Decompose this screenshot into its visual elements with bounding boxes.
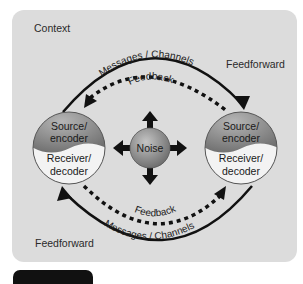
right-source-label-1: Source/ (223, 120, 259, 132)
right-receiver-label-1: Receiver/ (219, 152, 263, 164)
noise-label: Noise (137, 142, 164, 154)
arrow-head-icon (233, 96, 250, 110)
left-source-label-1: Source/ (51, 120, 87, 132)
right-source-label-2: encoder (222, 132, 260, 144)
top-feedback-arc (84, 77, 228, 112)
right-node: Source/ encoder Receiver/ decoder (202, 108, 282, 188)
noise-node: Noise (113, 111, 187, 185)
caption-tab (13, 270, 93, 284)
left-receiver-label-2: decoder (50, 165, 88, 177)
bottom-feedback-label: Feedback (133, 202, 178, 218)
left-receiver-label-1: Receiver/ (47, 152, 91, 164)
right-receiver-label-2: decoder (222, 165, 260, 177)
left-node: Source/ encoder Receiver/ decoder (30, 108, 110, 188)
left-source-label-2: encoder (50, 132, 88, 144)
